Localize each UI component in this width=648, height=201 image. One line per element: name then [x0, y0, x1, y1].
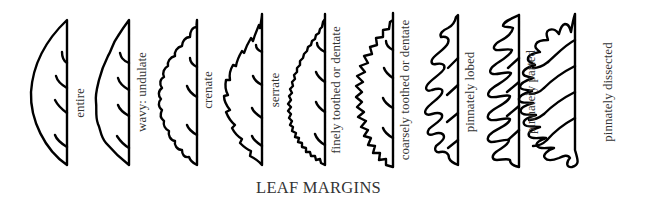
label-entire: entire: [72, 88, 87, 118]
leaf-crenate: [159, 20, 197, 165]
label-coarsely-toothed: coarsely toothed or dentate: [397, 20, 412, 161]
leaf-entire: [31, 20, 67, 165]
leaf-finely-toothed: [288, 14, 325, 165]
label-finely-toothed: finely toothed or dentate: [328, 26, 343, 154]
leaf-undulate: [96, 20, 129, 165]
label-pinnately-lobed: pinnately lobed: [462, 51, 477, 132]
leaf-pinnately-lobed: [425, 15, 458, 165]
label-serrate: serrate: [267, 72, 282, 107]
label-pinnately-dissected: pinnately dissected: [600, 42, 615, 142]
leaf-margins-diagram: entire wavy: undulate crenate serrate fi…: [0, 0, 648, 201]
label-pinnately-parted: pinnately parted: [523, 49, 538, 134]
leaf-serrate: [224, 14, 262, 165]
diagram-title: LEAF MARGINS: [256, 178, 381, 198]
leaf-coarsely-toothed: [356, 13, 393, 167]
leaf-pinnately-parted: [488, 15, 519, 167]
label-undulate: wavy: undulate: [134, 52, 149, 132]
label-crenate: crenate: [200, 71, 215, 109]
